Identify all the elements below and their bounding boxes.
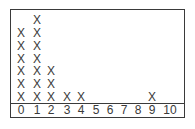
x-mark: X bbox=[31, 14, 43, 26]
tick-label: 4 bbox=[73, 104, 89, 116]
tick-label: 2 bbox=[43, 104, 59, 116]
x-mark: X bbox=[15, 27, 27, 39]
x-mark: X bbox=[45, 78, 57, 90]
tick-label: 10 bbox=[162, 104, 178, 116]
x-mark: X bbox=[15, 65, 27, 77]
x-mark: X bbox=[31, 27, 43, 39]
x-mark: X bbox=[15, 53, 27, 65]
x-mark: X bbox=[31, 78, 43, 90]
tick-label: 9 bbox=[144, 104, 160, 116]
x-mark: X bbox=[31, 91, 43, 103]
x-mark: X bbox=[31, 65, 43, 77]
x-mark: X bbox=[45, 91, 57, 103]
x-mark: X bbox=[31, 40, 43, 52]
x-mark: X bbox=[15, 78, 27, 90]
x-mark: X bbox=[75, 91, 87, 103]
x-mark: X bbox=[61, 91, 73, 103]
x-mark: X bbox=[31, 53, 43, 65]
x-mark: X bbox=[45, 65, 57, 77]
tick-label: 0 bbox=[13, 104, 29, 116]
x-mark: X bbox=[15, 40, 27, 52]
x-mark: X bbox=[146, 91, 158, 103]
x-mark: X bbox=[15, 91, 27, 103]
